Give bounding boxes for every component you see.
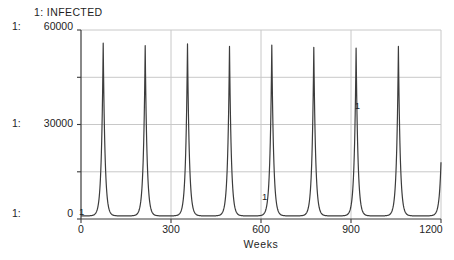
y-tick-label-30000: 30000 [44,117,73,129]
series-number-prefix: 1: [0,117,21,129]
y-axis-label-row-middle: 1: 30000 [0,117,73,129]
chart-title: 1: INFECTED [34,6,103,18]
series-number-prefix: 1: [0,207,21,219]
x-tick-label: 300 [162,223,180,235]
series-number-prefix: 1: [0,20,21,32]
y-tick-label-0: 0 [67,207,73,219]
time-series-chart: 03006009001200111 1: INFECTED 1: 60000 1… [0,0,454,260]
curve-marker: 1 [355,100,360,111]
x-tick-label: 0 [78,223,84,235]
x-axis-title: Weeks [228,238,294,250]
y-axis-label-row-bottom: 1: 0 [0,207,73,219]
x-tick-label: 900 [342,223,360,235]
x-tick-label: 1200 [419,223,443,235]
curve-marker: 1 [262,191,267,202]
y-tick-label-60000: 60000 [44,20,73,32]
curve-marker: 1 [79,206,84,217]
plot-canvas: 03006009001200111 [0,0,454,260]
x-tick-label: 600 [252,223,270,235]
y-axis-label-row-top: 1: 60000 [0,20,73,32]
